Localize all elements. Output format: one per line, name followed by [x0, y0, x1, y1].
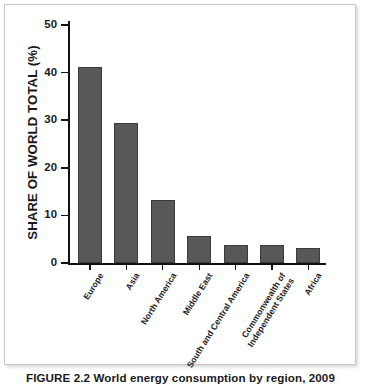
y-axis-tick-label: 40 [23, 66, 57, 78]
y-axis-tick-label: 30 [23, 113, 57, 125]
y-axis-tick-label: 10 [23, 208, 57, 220]
figure-caption: FIGURE 2.2 World energy consumption by r… [26, 371, 356, 384]
x-axis-label: Europe [81, 271, 105, 301]
y-axis-tick [61, 167, 69, 169]
plot-area: SHARE OF WORLD TOTAL (%) 01020304050 Eur… [5, 5, 357, 366]
x-axis-tick [199, 265, 200, 270]
bar [296, 248, 320, 263]
x-axis-label: North America [139, 271, 179, 326]
x-axis-label: Africa [302, 271, 324, 297]
x-axis-tick [235, 265, 236, 270]
bar [151, 200, 175, 263]
y-axis-tick [61, 215, 69, 217]
x-axis-line [68, 263, 326, 265]
y-axis-tick [61, 119, 69, 121]
bar [78, 67, 102, 263]
x-axis-tick [271, 265, 272, 270]
y-axis-tick-label: 0 [23, 256, 57, 268]
y-axis-line [68, 21, 70, 264]
bar [224, 245, 248, 263]
x-axis-label: Middle East [181, 271, 215, 317]
y-axis-tick-label: 50 [23, 18, 57, 30]
bar [114, 123, 138, 263]
bar [187, 236, 211, 263]
x-axis-tick [126, 265, 127, 270]
chart-panel: SHARE OF WORLD TOTAL (%) 01020304050 Eur… [4, 4, 356, 365]
y-axis-tick [61, 72, 69, 74]
figure-root: SHARE OF WORLD TOTAL (%) 01020304050 Eur… [0, 0, 365, 385]
x-axis-tick [89, 265, 90, 270]
y-axis-tick-label: 20 [23, 161, 57, 173]
bar [260, 245, 284, 263]
x-axis-tick [162, 265, 163, 270]
x-axis-label: Asia [124, 271, 142, 292]
x-axis-label: South and Central America [184, 271, 251, 370]
y-axis-tick [61, 262, 69, 264]
x-axis-tick [308, 265, 309, 270]
y-axis-tick [61, 24, 69, 26]
